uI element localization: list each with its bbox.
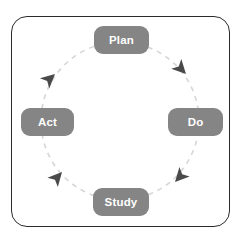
arrow-bottom-left-icon <box>47 167 67 187</box>
cycle-node-study: Study <box>93 188 149 216</box>
arrow-top-right-icon <box>171 59 191 79</box>
cycle-node-plan-label: Plan <box>109 34 134 46</box>
arrow-top-left-icon <box>40 69 60 89</box>
cycle-node-plan: Plan <box>94 26 149 54</box>
cycle-node-do-label: Do <box>188 116 204 128</box>
cycle-node-act-label: Act <box>38 116 57 128</box>
cycle-node-act: Act <box>21 108 74 136</box>
cycle-node-do: Do <box>168 108 223 136</box>
pdsa-cycle-diagram: Plan Do Study Act <box>0 0 242 239</box>
cycle-node-study-label: Study <box>105 196 138 208</box>
arrow-bottom-right-icon <box>170 167 190 187</box>
